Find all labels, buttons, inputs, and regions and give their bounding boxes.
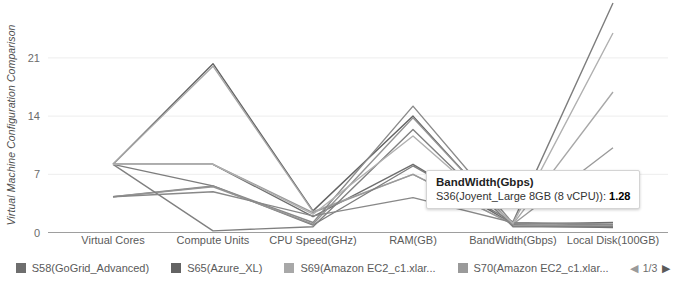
y-tick-label: 0 <box>6 227 40 239</box>
x-axis-label[interactable]: RAM(GB) <box>389 234 437 246</box>
legend-color-swatch <box>16 263 26 273</box>
legend-item-label: S69(Amazon EC2_c1.xlar... <box>300 262 435 274</box>
legend-item[interactable]: S70(Amazon EC2_c1.xlar... <box>458 262 609 274</box>
legend-item[interactable]: S69(Amazon EC2_c1.xlar... <box>284 262 435 274</box>
tooltip-value: 1.28 <box>609 190 630 202</box>
legend-item[interactable]: S58(GoGrid_Advanced) <box>16 262 149 274</box>
legend-item[interactable]: S65(Azure_XL) <box>171 262 262 274</box>
x-axis-label[interactable]: Local Disk(100GB) <box>567 234 659 246</box>
legend-color-swatch <box>284 263 294 273</box>
tooltip-series-label: S36(Joyent_Large 8GB (8 vCPU)): <box>436 190 606 202</box>
parallel-coordinates-svg <box>0 0 675 250</box>
legend-items: S58(GoGrid_Advanced)S65(Azure_XL)S69(Ama… <box>5 262 620 274</box>
y-tick-label: 21 <box>6 52 40 64</box>
tooltip-title: BandWidth(Gbps) <box>436 176 630 188</box>
y-tick-label: 7 <box>6 168 40 180</box>
x-axis-label[interactable]: CPU Speed(GHz) <box>269 234 356 246</box>
chart-widget: Virtual Machine Configuration Comparison… <box>0 0 675 292</box>
legend-prev-arrow-icon[interactable]: ◀ <box>630 263 638 274</box>
legend-color-swatch <box>458 263 468 273</box>
legend-item-label: S65(Azure_XL) <box>187 262 262 274</box>
legend-color-swatch <box>171 263 181 273</box>
y-tick-label: 14 <box>6 110 40 122</box>
legend-next-arrow-icon[interactable]: ▶ <box>662 263 670 274</box>
chart-legend: S58(GoGrid_Advanced)S65(Azure_XL)S69(Ama… <box>0 256 675 280</box>
data-tooltip: BandWidth(Gbps) S36(Joyent_Large 8GB (8 … <box>426 170 640 209</box>
gridlines <box>48 58 668 174</box>
x-axis-label[interactable]: Virtual Cores <box>81 234 144 246</box>
plot-area: 071421 Virtual CoresCompute UnitsCPU Spe… <box>0 0 675 250</box>
legend-item-label: S58(GoGrid_Advanced) <box>32 262 149 274</box>
legend-pager[interactable]: ◀ 1/3 ▶ <box>630 262 671 274</box>
tooltip-row: S36(Joyent_Large 8GB (8 vCPU)): 1.28 <box>436 190 630 202</box>
legend-item-label: S70(Amazon EC2_c1.xlar... <box>474 262 609 274</box>
x-axis-label[interactable]: BandWidth(Gbps) <box>469 234 556 246</box>
x-axis-label[interactable]: Compute Units <box>177 234 250 246</box>
legend-page-indicator: 1/3 <box>643 262 658 274</box>
